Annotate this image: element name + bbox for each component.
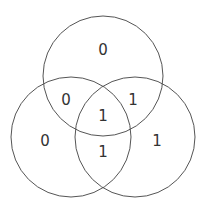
region-top-only: 0	[98, 41, 108, 59]
region-left-right: 1	[98, 143, 108, 161]
region-left-only: 0	[40, 132, 50, 150]
circle-left	[11, 77, 131, 197]
region-top-left: 0	[61, 91, 71, 109]
region-all-three: 1	[98, 107, 108, 125]
region-top-right: 1	[128, 91, 138, 109]
region-right-only: 1	[152, 132, 162, 150]
venn-diagram: 0 0 1 1 0 1 1	[0, 0, 204, 208]
